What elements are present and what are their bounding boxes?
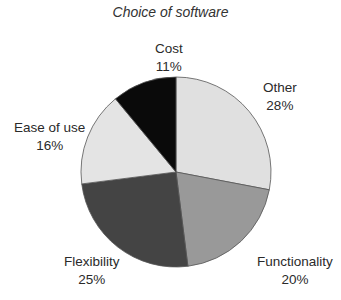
label-flexibility-name: Flexibility (64, 253, 120, 271)
label-flexibility-pct: 25% (64, 271, 120, 289)
pie-slice-other (176, 77, 271, 190)
label-other-name: Other (263, 79, 297, 97)
label-ease-name: Ease of use (14, 119, 85, 137)
label-cost-pct: 11% (155, 58, 183, 76)
label-cost-name: Cost (155, 40, 183, 58)
label-functionality-name: Functionality (257, 253, 333, 271)
label-ease-of-use: Ease of use 16% (14, 119, 85, 155)
pie-slices (81, 77, 271, 267)
label-other: Other 28% (263, 79, 297, 115)
label-cost: Cost 11% (155, 40, 183, 76)
label-functionality-pct: 20% (257, 271, 333, 289)
label-other-pct: 28% (263, 97, 297, 115)
label-ease-pct: 16% (14, 137, 85, 155)
label-functionality: Functionality 20% (257, 253, 333, 289)
label-flexibility: Flexibility 25% (64, 253, 120, 289)
